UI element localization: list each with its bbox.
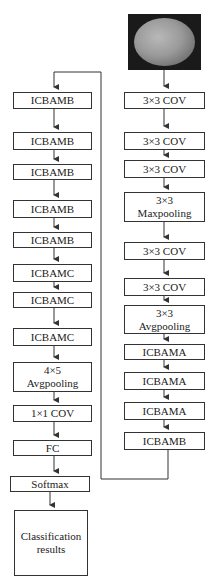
right-icbama-2: ICBAMA xyxy=(124,372,205,390)
right-conv-2: 3×3 COV xyxy=(124,132,205,150)
left-icbamc-2: ICBAMC xyxy=(13,292,92,308)
box-label: ICBAMB xyxy=(31,234,74,247)
box-label: ICBAMB xyxy=(31,135,74,148)
left-icbamb-4: ICBAMB xyxy=(13,200,92,218)
right-conv-5: 3×3 COV xyxy=(124,278,205,296)
box-label: ICBAMB xyxy=(143,435,186,448)
classification-results: Classificationresults xyxy=(14,510,88,576)
box-label-line1: 3×3 xyxy=(156,194,173,207)
left-fc: FC xyxy=(13,440,92,456)
box-label: ICBAMA xyxy=(142,346,186,359)
box-label: ICBAMC xyxy=(31,267,74,280)
box-label: ICBAMB xyxy=(31,203,74,216)
box-label: 3×3 COV xyxy=(143,245,186,258)
left-icbamc-3: ICBAMC xyxy=(13,328,92,346)
left-icbamb-5: ICBAMB xyxy=(13,232,92,248)
left-softmax: Softmax xyxy=(10,476,90,492)
right-conv-3: 3×3 COV xyxy=(124,160,205,178)
box-label-line1: 4×5 xyxy=(44,364,61,377)
box-label: ICBAMB xyxy=(31,166,74,179)
right-icbama-3: ICBAMA xyxy=(124,402,205,420)
right-avgpooling: 3×3Avgpooling xyxy=(124,305,205,334)
left-icbamc-1: ICBAMC xyxy=(13,264,92,282)
left-icbamb-1: ICBAMB xyxy=(13,92,92,109)
box-label: ICBAMA xyxy=(142,405,186,418)
right-icbama-1: ICBAMA xyxy=(124,344,205,360)
box-label: 3×3 COV xyxy=(143,281,186,294)
box-label: ICBAMC xyxy=(31,294,74,307)
box-label-line2: results xyxy=(37,543,66,556)
box-label: 3×3 COV xyxy=(143,135,186,148)
box-label-line1: Classification xyxy=(21,530,82,543)
right-icbamb: ICBAMB xyxy=(124,432,205,450)
right-maxpooling: 3×3Maxpooling xyxy=(124,192,205,222)
input-image-ellipse xyxy=(134,18,195,66)
box-label: ICBAMA xyxy=(142,375,186,388)
left-avgpooling: 4×5Avgpooling xyxy=(13,362,92,392)
left-icbamb-2: ICBAMB xyxy=(13,132,92,150)
box-label-line1: 3×3 xyxy=(156,307,173,320)
box-label: 1×1 COV xyxy=(31,407,74,420)
box-label: 3×3 COV xyxy=(143,163,186,176)
box-label-line2: Avgpooling xyxy=(139,320,191,333)
box-label: ICBAMB xyxy=(31,94,74,107)
right-conv-4: 3×3 COV xyxy=(124,242,205,260)
box-label-line2: Maxpooling xyxy=(138,207,192,220)
left-icbamb-3: ICBAMB xyxy=(13,164,92,180)
box-label: ICBAMC xyxy=(31,331,74,344)
input-image xyxy=(128,14,201,70)
box-label: FC xyxy=(46,442,59,455)
box-label: 3×3 COV xyxy=(143,94,186,107)
box-label: Softmax xyxy=(31,478,68,491)
right-conv-1: 3×3 COV xyxy=(124,92,205,109)
box-label-line2: Avgpooling xyxy=(27,377,79,390)
left-conv-1x1: 1×1 COV xyxy=(13,405,92,422)
